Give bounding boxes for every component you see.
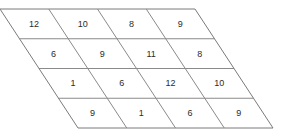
grid-cell-value: 10 (78, 19, 88, 29)
sheared-number-grid-figure: 121089691181612109169 (0, 0, 283, 135)
grid-cell-value: 9 (100, 49, 105, 59)
grid-cell-value: 12 (29, 19, 39, 29)
grid-canvas: 121089691181612109169 (0, 0, 283, 135)
grid-cell-value: 6 (51, 49, 56, 59)
grid-cell-value: 9 (178, 19, 183, 29)
grid-cell-value: 12 (166, 78, 176, 88)
grid-cell-value: 9 (236, 108, 241, 118)
grid-cell-value: 11 (146, 49, 155, 59)
grid-cell-value: 1 (71, 78, 76, 88)
grid-cell-value: 9 (90, 108, 95, 118)
grid-cell-value: 6 (188, 108, 193, 118)
grid-cell-value: 8 (129, 19, 134, 29)
grid-cell-value: 6 (119, 78, 124, 88)
grid-cell-value: 10 (214, 78, 224, 88)
grid-cell-value: 8 (197, 49, 202, 59)
grid-lines-group (0, 9, 273, 128)
grid-cell-value: 1 (139, 108, 144, 118)
